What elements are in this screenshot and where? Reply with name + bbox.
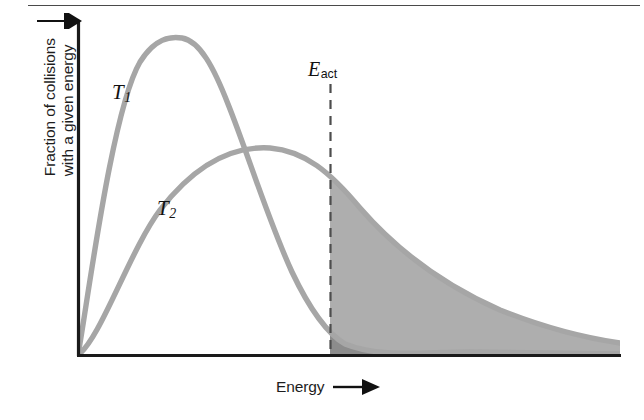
y-axis-label-text: Fraction of collisions with a given ener… [41,38,78,176]
series-label-t2-symbol: T [157,196,169,220]
activation-energy-symbol: E [308,58,320,80]
activation-energy-subscript: act [321,67,338,81]
series-label-t2: T2 [157,196,176,222]
up-arrow-icon [34,13,84,29]
series-label-t1-symbol: T [112,80,124,104]
right-arrow-icon [333,378,381,396]
y-axis-label: Fraction of collisions with a given ener… [29,13,89,263]
series-label-t1-subscript: 1 [124,90,131,105]
maxwell-boltzmann-figure: Fraction of collisions with a given ener… [0,0,644,420]
series-label-t1: T1 [112,80,131,106]
x-axis-label: Energy [276,377,381,396]
t2-shaded-area [330,20,620,355]
series-label-t2-subscript: 2 [169,206,176,221]
x-axis-label-text: Energy [276,378,325,396]
activation-energy-label: Eact [308,58,337,81]
